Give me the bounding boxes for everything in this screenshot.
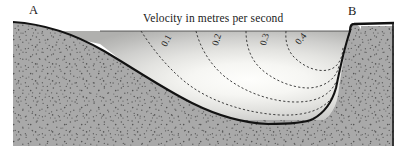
bed-sediment-base-stipple-overlay [13,120,394,146]
right-bank-label: B [348,5,356,18]
figure-title: Velocity in metres per second [143,13,283,25]
left-bank-label: A [29,4,38,17]
velocity-cross-section-figure: Velocity in metres per second A B 0.1 0.… [0,0,406,158]
right-bank-extension-stipple-overlay [361,26,394,130]
